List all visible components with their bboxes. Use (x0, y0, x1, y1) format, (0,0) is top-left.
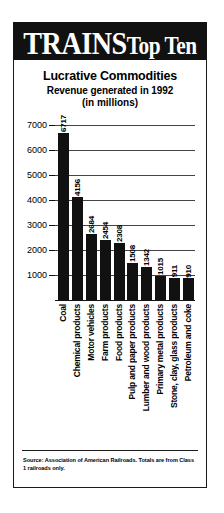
chart-title: Lucrative Commodities (18, 68, 202, 83)
bar-value-label: 910 (183, 265, 194, 278)
bar (183, 278, 194, 301)
bar (58, 133, 69, 301)
category-slot: Farm products (100, 304, 111, 464)
category-label: Chemical products (72, 304, 83, 377)
bar-slot: 2454 (100, 240, 111, 301)
category-slot: Stone, clay, glass products (169, 304, 180, 464)
masthead-suffix: Top Ten (127, 32, 197, 60)
bar (86, 234, 97, 301)
category-slot: Petroleum and coke (183, 304, 194, 464)
bar-value-label: 4156 (72, 179, 83, 196)
y-tick-label: 6000 (17, 146, 47, 155)
bar-value-label: 911 (169, 265, 180, 277)
category-label: Coal (58, 304, 69, 322)
category-slot: Coal (58, 304, 69, 464)
bar-slot: 911 (169, 278, 180, 301)
bar (155, 276, 166, 301)
category-label: Petroleum and coke (183, 304, 194, 381)
category-slot: Primary metal products (155, 304, 166, 464)
bar (127, 263, 138, 301)
y-tick-label: 1000 (17, 271, 47, 280)
chart-units-label: (in millions) (14, 97, 206, 109)
bar-value-label: 1342 (141, 249, 152, 266)
category-slot: Pulp and paper products (127, 304, 138, 464)
plot-area: 1000200030004000500060007000 67174156268… (55, 116, 195, 301)
bar (114, 243, 125, 301)
bar-slot: 4156 (72, 197, 83, 301)
category-label: Stone, clay, glass products (169, 304, 180, 408)
category-label: Motor vehicles (86, 304, 97, 361)
y-tick-label: 7000 (17, 121, 47, 130)
chart-page: TRAINSTop Ten Lucrative Commodities Reve… (0, 0, 224, 513)
bar-slot: 1342 (141, 267, 152, 301)
bar (100, 240, 111, 301)
chart-panel: Lucrative Commodities Revenue generated … (13, 60, 207, 488)
category-label: Farm products (100, 304, 111, 361)
y-tick-label: 2000 (17, 246, 47, 255)
bar (141, 267, 152, 301)
bar-value-label: 2684 (86, 216, 97, 233)
masthead-title: TRAINSTop Ten (16, 24, 204, 60)
category-slot: Food products (114, 304, 125, 464)
bar-value-label: 2308 (114, 225, 125, 242)
bar-value-label: 1015 (155, 258, 166, 275)
bar (169, 278, 180, 301)
category-label: Food products (114, 304, 125, 361)
x-axis-line (55, 300, 195, 301)
bar-value-label: 6717 (58, 115, 69, 132)
category-slot: Motor vehicles (86, 304, 97, 464)
bar-slot: 6717 (58, 133, 69, 301)
bar-slot: 910 (183, 278, 194, 301)
y-tick-label: 5000 (17, 171, 47, 180)
category-label: Primary metal products (155, 304, 166, 395)
bar (72, 197, 83, 301)
y-tick-label: 3000 (17, 221, 47, 230)
masthead-brand: TRAINS (23, 25, 126, 60)
source-note: Source: Association of American Railroad… (23, 456, 195, 472)
masthead-banner: TRAINSTop Ten (13, 22, 207, 60)
bar-slot: 1015 (155, 276, 166, 301)
bar-value-label: 2454 (100, 222, 111, 239)
bar-series: 67174156268424542308150813421015911910 (55, 116, 195, 301)
chart-subtitle: Revenue generated in 1992 (14, 85, 206, 97)
figure: TRAINSTop Ten Lucrative Commodities Reve… (13, 22, 207, 488)
y-tick-label: 4000 (17, 196, 47, 205)
category-slot: Chemical products (72, 304, 83, 464)
x-axis-category-labels: CoalChemical productsMotor vehiclesFarm … (55, 304, 195, 464)
bar-slot: 2308 (114, 243, 125, 301)
bar-slot: 2684 (86, 234, 97, 301)
bar-value-label: 1508 (127, 245, 138, 262)
category-slot: Lumber and wood products (141, 304, 152, 464)
category-label: Pulp and paper products (127, 304, 138, 400)
bar-slot: 1508 (127, 263, 138, 301)
source-divider (22, 450, 198, 451)
category-label: Lumber and wood products (141, 304, 152, 411)
